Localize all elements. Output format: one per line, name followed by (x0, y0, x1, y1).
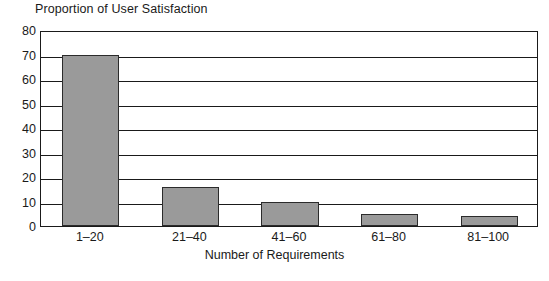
x-axis-tick-labels: 1–2021–4041–6061–8081–100 (40, 230, 538, 248)
bar-chart: Proportion of User Satisfaction 01020304… (0, 0, 549, 281)
bar (162, 187, 219, 226)
bar (461, 216, 518, 226)
bar (361, 214, 418, 226)
y-axis-tick-label: 50 (22, 98, 36, 112)
x-axis-tick-label: 21–40 (172, 230, 207, 244)
y-axis-tick-labels: 01020304050607080 (0, 31, 36, 227)
bar (62, 55, 119, 227)
y-axis-tick-label: 60 (22, 73, 36, 87)
x-axis-title: Number of Requirements (0, 248, 549, 262)
y-axis-tick-label: 10 (22, 196, 36, 210)
bars-layer (41, 32, 537, 226)
plot-area (40, 31, 538, 227)
y-axis-tick-label: 80 (22, 24, 36, 38)
chart-title: Proportion of User Satisfaction (35, 2, 208, 16)
y-axis-tick-label: 30 (22, 147, 36, 161)
y-axis-tick-label: 70 (22, 49, 36, 63)
y-axis-tick-label: 40 (22, 122, 36, 136)
bar (261, 202, 318, 227)
x-axis-tick-label: 1–20 (76, 230, 104, 244)
y-axis-tick-label: 0 (29, 220, 36, 234)
x-axis-tick-label: 61–80 (371, 230, 406, 244)
x-axis-tick-label: 81–100 (467, 230, 509, 244)
x-axis-tick-label: 41–60 (272, 230, 307, 244)
y-axis-tick-label: 20 (22, 171, 36, 185)
